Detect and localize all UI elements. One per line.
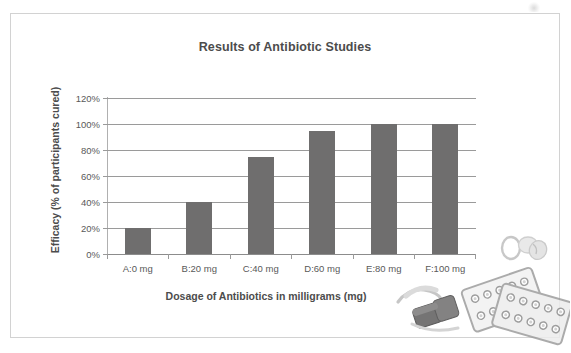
y-tick-label-20: 20% — [56, 223, 100, 234]
y-tick-label-120: 120% — [56, 93, 100, 104]
x-axis-category-labels: A:0 mg B:20 mg C:40 mg D:60 mg E:80 mg F… — [107, 263, 476, 274]
chart-title: Results of Antibiotic Studies — [11, 40, 559, 54]
plot-area: 120% 100% 80% 60% 40% 20% 0% — [107, 98, 476, 254]
x-tick-4 — [353, 254, 354, 259]
x-tick-5 — [414, 254, 415, 259]
x-label-f: F:100 mg — [415, 263, 477, 274]
y-tick-label-60: 60% — [56, 171, 100, 182]
bar-slot-e — [353, 98, 415, 254]
bar-slot-d — [292, 98, 354, 254]
x-label-a: A:0 mg — [107, 263, 169, 274]
bar-slot-a — [107, 98, 169, 254]
x-label-b: B:20 mg — [169, 263, 231, 274]
x-tick-2 — [230, 254, 231, 259]
x-tick-0 — [107, 254, 108, 259]
bar-slot-c — [230, 98, 292, 254]
x-axis-ticks — [107, 254, 476, 259]
bar-f-100mg[interactable] — [432, 124, 458, 254]
bar-a-0mg[interactable] — [125, 228, 151, 254]
bar-c-40mg[interactable] — [248, 157, 274, 255]
scan-smudge-artifact — [528, 2, 540, 12]
chart-frame: Results of Antibiotic Studies Efficacy (… — [10, 13, 560, 338]
x-tick-6 — [475, 254, 476, 259]
y-tick-label-0: 0% — [56, 249, 100, 260]
x-label-e: E:80 mg — [353, 263, 415, 274]
y-tick-label-80: 80% — [56, 145, 100, 156]
bar-series — [107, 98, 476, 254]
x-axis-title: Dosage of Antibiotics in milligrams (mg) — [51, 290, 481, 302]
bar-slot-b — [169, 98, 231, 254]
bar-e-80mg[interactable] — [371, 124, 397, 254]
y-tick-label-40: 40% — [56, 197, 100, 208]
x-tick-3 — [291, 254, 292, 259]
bar-b-20mg[interactable] — [186, 202, 212, 254]
x-label-d: D:60 mg — [292, 263, 354, 274]
x-label-c: C:40 mg — [230, 263, 292, 274]
y-tick-label-100: 100% — [56, 119, 100, 130]
bar-slot-f — [415, 98, 477, 254]
x-tick-1 — [168, 254, 169, 259]
bar-d-60mg[interactable] — [309, 131, 335, 255]
